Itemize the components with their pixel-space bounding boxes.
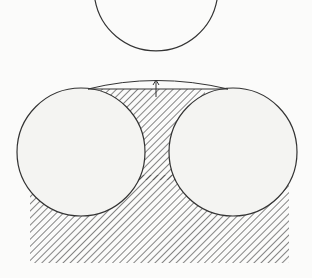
left-circle [17,88,145,216]
diagram-canvas [0,0,312,278]
curved-arc [88,81,228,90]
top-circle [95,0,217,51]
right-circle [169,88,297,216]
